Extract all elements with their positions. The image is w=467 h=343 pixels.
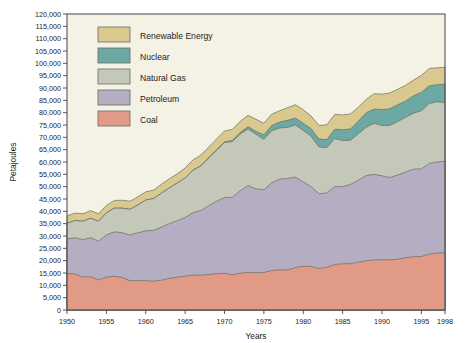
x-tick-label: 1998 [437, 317, 453, 326]
x-axis-title: Years [245, 331, 266, 341]
y-tick-label: 70,000 [39, 133, 61, 142]
y-tick-label: 30,000 [39, 232, 61, 241]
y-tick-label: 60,000 [39, 158, 61, 167]
x-tick-label: 1960 [138, 317, 154, 326]
legend-swatch-coal [98, 111, 130, 126]
legend-label-coal: Coal [140, 115, 158, 125]
y-tick-label: 45,000 [39, 195, 61, 204]
legend-swatch-renewable-energy [98, 27, 130, 42]
y-axis-title: Petajoules [8, 142, 18, 181]
legend-label-natural-gas: Natural Gas [140, 73, 186, 83]
legend-label-nuclear: Nuclear [140, 52, 170, 62]
y-tick-label: 115,000 [36, 22, 61, 31]
y-tick-label: 85,000 [39, 96, 61, 105]
chart-figure: 05,00010,00015,00020,00025,00030,00035,0… [0, 0, 467, 343]
y-tick-label: 100,000 [35, 59, 61, 68]
y-tick-label: 105,000 [35, 47, 61, 56]
y-tick-label: 0 [57, 306, 61, 315]
y-tick-label: 120,000 [35, 10, 61, 19]
x-tick-label: 1980 [295, 317, 311, 326]
x-tick-label: 1965 [177, 317, 193, 326]
legend-swatch-petroleum [98, 90, 130, 105]
y-tick-label: 25,000 [39, 244, 61, 253]
x-tick-label: 1955 [98, 317, 114, 326]
y-tick-label: 20,000 [39, 256, 61, 265]
y-tick-label: 95,000 [39, 71, 61, 80]
y-tick-label: 110,000 [36, 34, 61, 43]
y-tick-label: 75,000 [39, 121, 61, 130]
y-tick-label: 55,000 [39, 170, 61, 179]
y-tick-label: 40,000 [39, 207, 61, 216]
x-tick-label: 1995 [413, 317, 429, 326]
y-tick-label: 90,000 [39, 84, 61, 93]
y-tick-label: 80,000 [39, 108, 61, 117]
y-tick-label: 10,000 [39, 281, 61, 290]
x-tick-label: 1985 [335, 317, 351, 326]
y-tick-label: 5,000 [43, 293, 61, 302]
legend-label-renewable-energy: Renewable Energy [140, 31, 213, 41]
y-tick-label: 35,000 [39, 219, 61, 228]
legend-label-petroleum: Petroleum [140, 94, 179, 104]
y-tick-label: 15,000 [39, 269, 61, 278]
x-tick-label: 1990 [374, 317, 390, 326]
legend-swatch-natural-gas [98, 69, 130, 84]
y-tick-label: 65,000 [39, 145, 61, 154]
x-tick-label: 1950 [59, 317, 75, 326]
legend-swatch-nuclear [98, 48, 130, 63]
x-tick-label: 1970 [217, 317, 233, 326]
y-tick-label: 50,000 [39, 182, 61, 191]
x-tick-label: 1975 [256, 317, 272, 326]
stacked-area-chart: 05,00010,00015,00020,00025,00030,00035,0… [0, 0, 467, 343]
